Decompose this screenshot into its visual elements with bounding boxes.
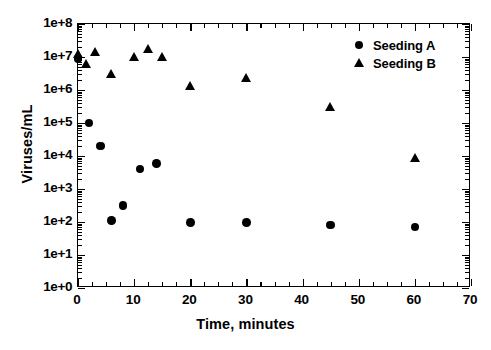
tick-mark	[78, 225, 82, 226]
tick-mark	[465, 159, 469, 160]
data-point-seeding-a	[85, 119, 94, 128]
tick-mark	[387, 282, 388, 286]
tick-mark	[78, 125, 82, 126]
tick-mark	[162, 24, 163, 28]
tick-mark	[465, 225, 469, 226]
tick-mark	[92, 282, 93, 286]
tick-mark	[78, 113, 82, 114]
tick-mark	[78, 41, 82, 42]
tick-mark	[78, 133, 82, 134]
tick-mark	[465, 224, 469, 225]
tick-mark	[331, 24, 332, 28]
tick-mark	[465, 206, 469, 207]
tick-mark	[465, 235, 469, 236]
tick-mark	[78, 235, 82, 236]
legend-label: Seeding B	[373, 56, 436, 71]
tick-mark	[359, 279, 360, 286]
tick-mark	[78, 245, 82, 246]
data-point-seeding-a	[96, 142, 105, 151]
tick-mark	[465, 133, 469, 134]
tick-mark	[465, 100, 469, 101]
y-tick-label: 1e+0	[12, 279, 72, 294]
tick-mark	[78, 227, 82, 228]
tick-mark	[78, 239, 82, 240]
circle-marker-icon	[351, 36, 373, 54]
tick-mark	[443, 24, 444, 28]
tick-mark	[78, 194, 82, 195]
tick-mark	[465, 59, 469, 60]
data-point-seeding-a	[107, 216, 116, 225]
legend-label: Seeding A	[373, 38, 435, 53]
tick-mark	[465, 62, 469, 63]
tick-mark	[190, 24, 191, 31]
tick-mark	[176, 282, 177, 286]
tick-mark	[78, 128, 82, 129]
tick-mark	[345, 282, 346, 286]
data-point-seeding-b	[325, 102, 335, 111]
tick-mark	[78, 97, 82, 98]
tick-mark	[246, 279, 247, 286]
data-point-seeding-a	[152, 159, 161, 168]
tick-mark	[465, 47, 469, 48]
tick-mark	[78, 130, 82, 131]
tick-mark	[176, 24, 177, 28]
tick-mark	[465, 74, 469, 75]
tick-mark	[78, 179, 82, 180]
tick-mark	[92, 24, 93, 28]
data-point-seeding-a	[186, 218, 195, 227]
tick-mark	[78, 279, 79, 286]
tick-mark	[465, 27, 469, 28]
tick-mark	[465, 272, 469, 273]
data-point-seeding-b	[73, 49, 83, 58]
x-tick-label: 50	[335, 292, 381, 307]
legend-entry-seeding-a: Seeding A	[351, 36, 461, 54]
data-point-seeding-a	[242, 218, 251, 227]
data-point-seeding-a	[411, 223, 420, 232]
tick-mark	[78, 192, 82, 193]
x-tick-label: 0	[54, 292, 100, 307]
tick-mark	[465, 161, 469, 162]
tick-mark	[359, 24, 360, 31]
tick-mark	[134, 279, 135, 286]
data-point-seeding-b	[106, 69, 116, 78]
tick-mark	[465, 229, 469, 230]
tick-mark	[465, 146, 469, 147]
tick-mark	[465, 194, 469, 195]
x-tick-label: 20	[166, 292, 212, 307]
tick-mark	[78, 29, 82, 30]
tick-mark	[78, 224, 82, 225]
tick-mark	[232, 24, 233, 28]
tick-mark	[457, 282, 458, 286]
tick-mark	[204, 282, 205, 286]
tick-mark	[465, 60, 469, 61]
tick-mark	[275, 24, 276, 28]
tick-mark	[317, 24, 318, 28]
tick-mark	[465, 64, 469, 65]
data-point-seeding-a	[119, 201, 128, 210]
tick-mark	[78, 47, 82, 48]
data-point-seeding-a	[136, 165, 145, 174]
data-point-seeding-b	[157, 52, 167, 61]
tick-mark	[78, 212, 82, 213]
tick-mark	[78, 260, 82, 261]
tick-mark	[78, 191, 82, 192]
tick-mark	[465, 179, 469, 180]
tick-mark	[465, 262, 469, 263]
tick-mark	[260, 24, 261, 28]
tick-mark	[78, 161, 82, 162]
tick-mark	[289, 24, 290, 28]
tick-mark	[465, 166, 469, 167]
data-point-seeding-a	[326, 221, 335, 230]
tick-mark	[78, 199, 82, 200]
tick-mark	[78, 146, 82, 147]
tick-mark	[471, 279, 472, 286]
tick-mark	[106, 282, 107, 286]
tick-mark	[465, 158, 469, 159]
tick-mark	[317, 282, 318, 286]
tick-mark	[462, 288, 469, 289]
tick-mark	[120, 24, 121, 28]
legend: Seeding ASeeding B	[351, 36, 461, 72]
tick-mark	[465, 258, 469, 259]
circle-glyph	[355, 41, 364, 50]
tick-mark	[78, 140, 82, 141]
